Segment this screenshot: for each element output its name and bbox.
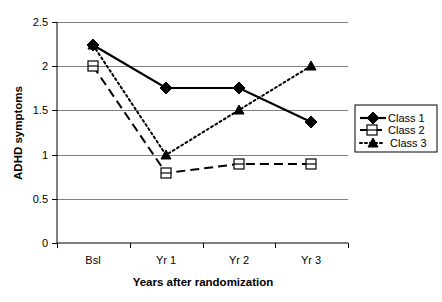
adhd-symptoms-line-chart: 2.5 2 1.5 1 0.5 0 Bsl Yr 1 Yr 2 Yr 3 ADH… (0, 0, 442, 302)
y-tick-label-0: 0 (42, 237, 48, 249)
y-tick-label-0.5: 0.5 (33, 193, 48, 205)
chart-container: 2.5 2 1.5 1 0.5 0 Bsl Yr 1 Yr 2 Yr 3 ADH… (0, 0, 442, 302)
legend-label-class-3: Class 3 (390, 137, 427, 149)
legend-item-class-2[interactable]: Class 2 (360, 124, 425, 136)
y-axis-title: ADHD symptoms (12, 86, 24, 180)
y-axis-ticks (52, 22, 57, 243)
y-tick-label-2: 2 (42, 60, 48, 72)
x-axis-ticks (57, 243, 348, 248)
y-axis-tick-labels: 2.5 2 1.5 1 0.5 0 (33, 16, 48, 249)
x-tick-label-bsl: Bsl (85, 254, 100, 266)
legend-label-class-2: Class 2 (388, 124, 425, 136)
legend-label-class-1: Class 1 (388, 112, 425, 124)
x-tick-label-yr1: Yr 1 (156, 254, 176, 266)
chart-legend: Class 1 Class 2 Class 3 (355, 105, 437, 152)
x-axis-title: Years after randomization (133, 276, 274, 288)
x-tick-label-yr2: Yr 2 (229, 254, 249, 266)
x-axis-tick-labels: Bsl Yr 1 Yr 2 Yr 3 (85, 254, 321, 266)
x-tick-label-yr3: Yr 3 (301, 254, 321, 266)
y-tick-label-1: 1 (42, 149, 48, 161)
y-tick-label-1.5: 1.5 (33, 104, 48, 116)
y-tick-label-2.5: 2.5 (33, 16, 48, 28)
